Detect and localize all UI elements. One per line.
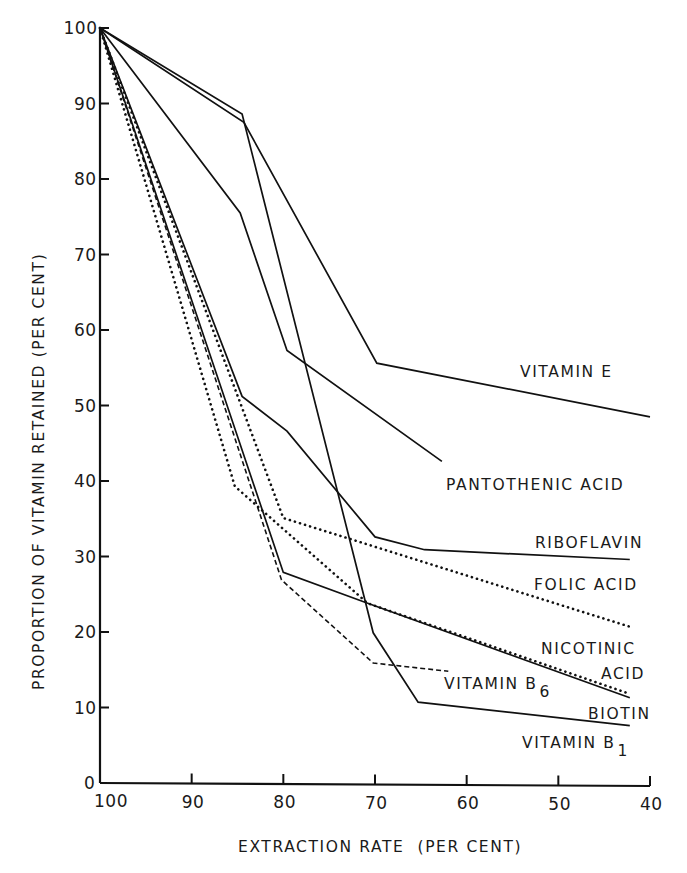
y-tick-label: 50 xyxy=(74,396,97,416)
series-pantothenic-acid xyxy=(100,28,442,461)
x-tick-label: 100 xyxy=(94,791,128,811)
series-vitamin-b6 xyxy=(100,28,448,671)
x-tick-label: 70 xyxy=(365,793,388,813)
y-tick-label: 100 xyxy=(64,18,98,38)
vitamin-retention-chart: 100908070605040 0102030405060708090100 V… xyxy=(0,0,687,873)
x-tick-label: 50 xyxy=(548,794,571,814)
x-axis-ticks: 100908070605040 xyxy=(94,774,663,815)
series-label: BIOTIN xyxy=(588,705,651,723)
x-tick-label: 90 xyxy=(182,792,205,812)
y-tick-label: 80 xyxy=(74,169,97,189)
series-label: VITAMIN B1 xyxy=(522,734,629,760)
series-label: PANTOTHENIC ACID xyxy=(446,476,624,494)
y-tick-label: 60 xyxy=(74,320,97,340)
series-biotin xyxy=(100,28,630,694)
series-labels: VITAMIN EPANTOTHENIC ACIDRIBOFLAVINFOLIC… xyxy=(444,363,651,760)
y-tick-label: 90 xyxy=(74,94,97,114)
y-axis-title: PROPORTION OF VITAMIN RETAINED (PER CENT… xyxy=(30,253,48,690)
series-label: FOLIC ACID xyxy=(534,576,638,594)
x-axis-title: EXTRACTION RATE (PER CENT) xyxy=(238,838,522,856)
x-tick-label: 40 xyxy=(640,794,663,814)
series-label: VITAMIN B6 xyxy=(444,675,551,701)
x-tick-label: 60 xyxy=(457,793,480,813)
y-tick-label: 0 xyxy=(84,773,95,793)
series-vitamin-e xyxy=(100,28,650,417)
series-label: VITAMIN E xyxy=(520,363,613,381)
series-label: RIBOFLAVIN xyxy=(535,534,643,552)
axes xyxy=(100,28,650,786)
y-tick-label: 20 xyxy=(74,622,97,642)
series-label: ACID xyxy=(601,665,645,683)
y-tick-label: 40 xyxy=(74,471,97,491)
series-label: NICOTINIC xyxy=(541,640,636,658)
y-tick-label: 30 xyxy=(74,547,97,567)
x-tick-label: 80 xyxy=(273,792,296,812)
y-tick-label: 10 xyxy=(74,698,97,718)
y-tick-label: 70 xyxy=(74,245,97,265)
y-axis-ticks: 0102030405060708090100 xyxy=(64,18,110,793)
